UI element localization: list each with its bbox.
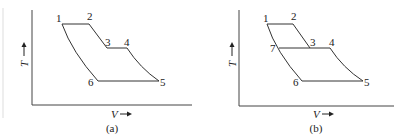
- tv-diagram-figure: T V (a) 1 2 3 4 5 6 T: [0, 0, 394, 139]
- point-2-label: 2: [87, 10, 93, 22]
- svg-text:T: T: [18, 60, 30, 67]
- point-6-label: 6: [293, 76, 299, 88]
- arrow-icon: [329, 112, 334, 117]
- svg-text:V: V: [313, 108, 321, 120]
- caption-a: (a): [106, 122, 119, 135]
- point-3-label: 3: [310, 36, 316, 48]
- arrow-icon: [127, 112, 132, 117]
- x-axis-label: V: [313, 108, 334, 120]
- cycle-b: [267, 24, 363, 81]
- point-1-label: 1: [263, 12, 269, 24]
- point-7-label: 7: [270, 42, 276, 54]
- panel-a: T V (a) 1 2 3 4 5 6: [18, 10, 192, 135]
- point-1-label: 1: [56, 12, 62, 24]
- point-2-label: 2: [291, 10, 297, 22]
- point-3-label: 3: [105, 36, 111, 48]
- arrow-icon: [230, 42, 235, 47]
- point-5-label: 5: [364, 76, 370, 88]
- y-axis-label: T: [18, 42, 30, 67]
- cycle-a: [62, 24, 159, 81]
- point-5-label: 5: [160, 76, 166, 88]
- svg-text:T: T: [226, 60, 238, 67]
- y-axis-label: T: [226, 42, 238, 67]
- caption-b: (b): [310, 122, 323, 135]
- arrow-icon: [22, 42, 27, 47]
- point-4-label: 4: [124, 36, 130, 48]
- panel-b: T V (b) 1 2 3 4 5 6 7: [226, 10, 394, 135]
- point-4-label: 4: [329, 36, 335, 48]
- point-6-label: 6: [88, 76, 94, 88]
- x-axis-label: V: [111, 108, 132, 120]
- svg-text:V: V: [111, 108, 119, 120]
